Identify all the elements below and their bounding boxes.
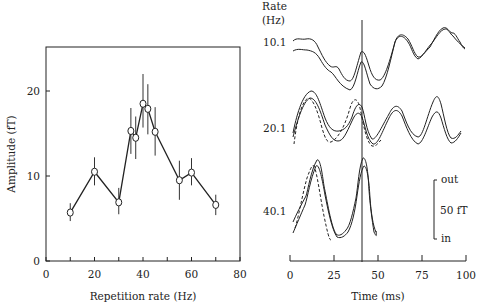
time-tick-label: 25 — [327, 269, 340, 281]
x-tick-label: 40 — [136, 268, 149, 280]
data-point-marker — [176, 177, 182, 184]
data-point-marker — [189, 169, 195, 176]
rate-header: Rate — [262, 0, 287, 12]
rate-unit: (Hz) — [262, 14, 285, 26]
data-point-marker — [145, 105, 151, 112]
y-tick-label: 20 — [27, 85, 40, 97]
x-tick-label: 60 — [185, 268, 198, 280]
data-point-marker — [152, 128, 158, 135]
waveform-panel: Rate (Hz) 10.1 20.1 40.1 out 50 fT — [262, 0, 476, 302]
time-axis: 0255075100 Time (ms) — [287, 255, 476, 302]
time-axis-label: Time (ms) — [351, 290, 404, 302]
x-axis-ticks: 020406080 — [43, 257, 247, 280]
y-axis-label: Amplitude (fT) — [5, 115, 17, 193]
traces-40hz — [293, 158, 376, 240]
time-tick-label: 75 — [415, 269, 428, 281]
rate-label-20: 20.1 — [263, 122, 286, 134]
scale-bar-out-label: out — [441, 173, 459, 185]
rate-label-40: 40.1 — [263, 205, 286, 217]
y-tick-label: 0 — [33, 255, 40, 267]
data-point-marker — [92, 168, 98, 175]
time-tick-label: 100 — [456, 269, 476, 281]
x-tick-label: 80 — [233, 268, 246, 280]
x-axis-label: Repetition rate (Hz) — [90, 290, 197, 302]
time-tick-label: 0 — [287, 269, 294, 281]
x-tick-label: 0 — [43, 268, 50, 280]
scale-bar-value-label: 50 fT — [440, 204, 468, 216]
data-point-marker — [116, 199, 122, 206]
scale-bar: out 50 fT in — [434, 173, 468, 244]
scale-bar-in-label: in — [441, 232, 451, 244]
amplitude-chart: 020406080 01020 Repetition rate (Hz) Amp… — [5, 47, 247, 302]
traces-10hz — [293, 28, 465, 90]
rate-label-10: 10.1 — [263, 36, 286, 48]
data-point-marker — [133, 134, 139, 141]
data-point-marker — [128, 127, 134, 134]
y-tick-label: 10 — [27, 170, 40, 182]
traces-20hz — [293, 91, 461, 146]
data-point-marker — [213, 201, 219, 208]
data-point-marker — [67, 209, 73, 216]
data-series — [67, 74, 219, 221]
x-tick-label: 20 — [88, 268, 101, 280]
time-tick-label: 50 — [371, 269, 384, 281]
figure: 020406080 01020 Repetition rate (Hz) Amp… — [0, 0, 484, 307]
